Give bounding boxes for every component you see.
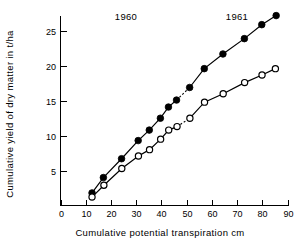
data-point — [157, 115, 164, 122]
data-point — [187, 115, 193, 121]
x-axis-tick-labels: 0102030405060708090 — [59, 209, 294, 219]
x-axis-title: Cumulative potential transpiration cm — [75, 227, 244, 238]
x-tick-label: 40 — [156, 209, 166, 219]
data-point — [259, 72, 265, 78]
data-point — [166, 127, 172, 133]
x-tick-label: 30 — [131, 209, 141, 219]
x-tick-label: 20 — [106, 209, 116, 219]
y-tick-label: 15 — [46, 97, 56, 107]
data-point — [220, 51, 227, 58]
data-point — [201, 99, 207, 105]
series-closed-circles — [89, 12, 280, 196]
data-point — [158, 136, 164, 142]
data-point — [273, 12, 280, 19]
x-tick-label: 80 — [257, 209, 267, 219]
data-point — [135, 137, 142, 144]
x-tick-label: 60 — [207, 209, 217, 219]
series-open-circles — [89, 66, 279, 201]
data-point — [258, 21, 265, 28]
y-tick-label: 20 — [46, 62, 56, 72]
data-point — [135, 153, 141, 159]
data-point — [146, 147, 152, 153]
data-point — [146, 127, 153, 134]
y-axis-ticks — [61, 32, 67, 172]
x-tick-label: 90 — [283, 209, 293, 219]
x-tick-label: 50 — [182, 209, 192, 219]
data-point — [220, 91, 226, 97]
annotation-1961: 1961 — [226, 11, 248, 22]
data-point — [89, 194, 95, 200]
data-point — [186, 84, 193, 91]
data-point — [101, 182, 107, 188]
chart-plot-area: Cumulative yield of dry matter in t/ha C… — [0, 0, 298, 243]
data-point — [241, 35, 248, 42]
x-tick-label: 0 — [59, 209, 64, 219]
data-point — [242, 80, 248, 86]
data-point — [201, 65, 208, 72]
y-axis-tick-labels: 510152025 — [46, 27, 56, 177]
x-tick-label: 10 — [81, 209, 91, 219]
data-point — [100, 174, 107, 181]
data-point — [272, 66, 278, 72]
data-series-layer — [89, 12, 280, 200]
annotation-1960: 1960 — [115, 11, 137, 22]
data-point — [118, 155, 125, 162]
x-tick-label: 70 — [232, 209, 242, 219]
data-point — [165, 104, 172, 111]
x-axis-ticks — [62, 200, 289, 206]
chart-container: Cumulative yield of dry matter in t/ha C… — [0, 0, 298, 243]
data-point — [173, 97, 180, 104]
data-point — [119, 165, 125, 171]
y-axis-title: Cumulative yield of dry matter in t/ha — [4, 30, 15, 198]
y-tick-label: 25 — [46, 27, 56, 37]
data-point — [174, 124, 180, 130]
y-tick-label: 10 — [46, 132, 56, 142]
y-tick-label: 5 — [51, 167, 56, 177]
